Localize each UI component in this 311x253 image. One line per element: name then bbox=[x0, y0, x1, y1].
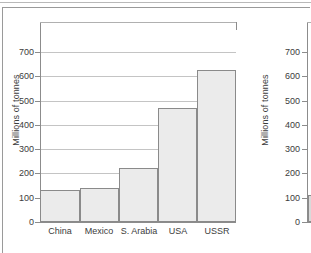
y-tick-label-100-secondary: 100 bbox=[266, 194, 300, 203]
bar-ussr bbox=[197, 70, 236, 222]
y-tick-label-0-secondary: 0 bbox=[266, 218, 300, 227]
y-tick-label-400-secondary: 400 bbox=[266, 121, 300, 130]
figure-page: Millions of tonnes 700 600 500 400 300 2… bbox=[0, 0, 311, 253]
y-tick-label-100: 100 bbox=[0, 194, 34, 203]
bar-s-arabia bbox=[119, 168, 158, 222]
y-tick-label-200-secondary: 200 bbox=[266, 169, 300, 178]
tick-0 bbox=[35, 222, 41, 223]
tick-0-secondary bbox=[302, 222, 308, 223]
y-tick-label-200: 200 bbox=[0, 169, 34, 178]
y-tick-label-500: 500 bbox=[0, 97, 34, 106]
bar-chart-main: Millions of tonnes 700 600 500 400 300 2… bbox=[0, 0, 248, 253]
bar-chart-secondary: Millions of tonnes 700 600 500 400 300 2… bbox=[252, 0, 311, 253]
bar-series bbox=[40, 22, 236, 222]
y-tick-label-300-secondary: 300 bbox=[266, 145, 300, 154]
y-tick-label-500-secondary: 500 bbox=[266, 97, 300, 106]
bar-mexico bbox=[80, 188, 119, 222]
x-tick-label-ussr: USSR bbox=[193, 226, 241, 236]
y-tick-label-600-secondary: 600 bbox=[266, 72, 300, 81]
bar-usa bbox=[158, 108, 197, 222]
y-tick-label-0: 0 bbox=[0, 218, 34, 227]
y-tick-label-700-secondary: 700 bbox=[266, 48, 300, 57]
y-tick-label-600: 600 bbox=[0, 72, 34, 81]
plot-right-tick bbox=[236, 22, 237, 30]
x-axis-line bbox=[40, 222, 236, 223]
y-tick-label-700: 700 bbox=[0, 48, 34, 57]
bar-series-secondary bbox=[308, 22, 311, 222]
y-tick-label-400: 400 bbox=[0, 121, 34, 130]
bar-secondary-first bbox=[308, 195, 311, 222]
y-tick-label-300: 300 bbox=[0, 145, 34, 154]
bar-china bbox=[40, 190, 80, 222]
